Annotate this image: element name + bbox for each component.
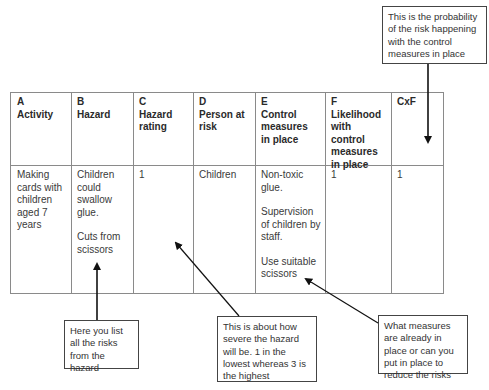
arrow-diagonal-icon <box>306 279 378 323</box>
arrow-diagonal-icon <box>176 243 239 316</box>
callout-arrows <box>0 0 489 390</box>
